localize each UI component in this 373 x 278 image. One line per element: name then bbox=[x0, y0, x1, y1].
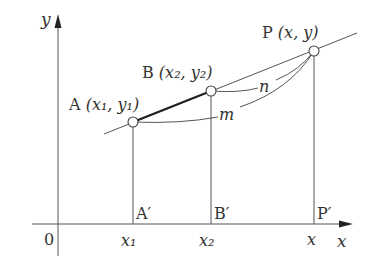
x-tick-label: x bbox=[307, 230, 316, 249]
y-axis-label: y bbox=[40, 9, 51, 29]
point-b bbox=[206, 86, 216, 96]
curve-n-part2 bbox=[276, 51, 314, 80]
curve-n-label: n bbox=[259, 77, 269, 96]
curve-m-label: m bbox=[219, 105, 234, 124]
p-prime-label: P′ bbox=[317, 204, 332, 223]
secant-diagram: y x 0 A (x₁, y₁) B (x₂, y₂) P (x, y) n m… bbox=[0, 0, 373, 278]
segment-ab bbox=[133, 91, 211, 122]
point-a-label: A (x₁, y₁) bbox=[68, 95, 139, 114]
point-a bbox=[128, 117, 138, 127]
x1-tick-label: x₁ bbox=[121, 231, 136, 250]
curve-m-part2 bbox=[240, 51, 314, 107]
x-axis-arrow-icon bbox=[339, 221, 353, 228]
origin-label: 0 bbox=[44, 230, 54, 249]
point-b-label: B (x₂, y₂) bbox=[142, 63, 212, 82]
y-axis-arrow-icon bbox=[55, 14, 62, 28]
point-p-label: P (x, y) bbox=[262, 23, 319, 42]
x-axis-label: x bbox=[337, 231, 347, 251]
b-prime-label: B′ bbox=[214, 204, 230, 223]
x2-tick-label: x₂ bbox=[199, 231, 214, 250]
a-prime-label: A′ bbox=[135, 204, 152, 223]
point-p bbox=[309, 46, 319, 56]
